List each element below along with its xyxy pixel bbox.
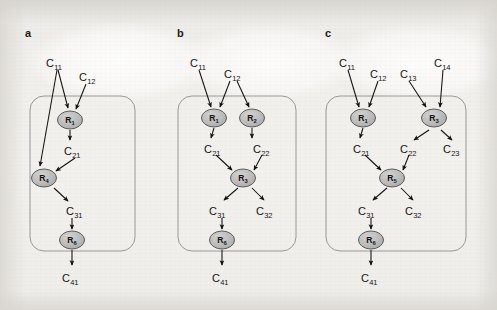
reaction-network-figure: R1R4R6R1R2R3R6R1R3R5R6 C11C12C21C31C41C1… [0,0,497,310]
scan-edge-shading [0,0,497,310]
